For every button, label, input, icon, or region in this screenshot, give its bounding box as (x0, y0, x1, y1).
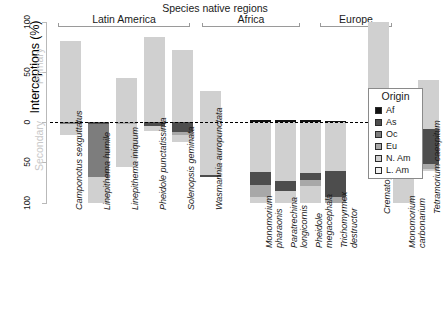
legend-label: Eu (386, 141, 397, 151)
species-label-linepithema-iniquum: Linepithema iniquum (131, 127, 141, 210)
y-axis-line (46, 22, 47, 203)
y-tick-label: 0 (22, 109, 32, 135)
legend-label: L. Am (386, 165, 409, 175)
bar-segment-primary-nam (116, 78, 137, 122)
legend-swatch-icon (375, 107, 382, 114)
legend-swatch-icon (375, 131, 382, 138)
species-label-trichomyrmex-destructor: Trichomyrmexdestructor (340, 192, 359, 248)
legend-swatch-icon (375, 143, 382, 150)
species-label-pheidole-megacephala: Pheidolemegacephala (315, 194, 334, 248)
y-tick-mark (42, 22, 47, 23)
bar-segment-secondary-as (250, 172, 271, 185)
species-label-monomorium-carbonarium: Monomoriumcarbonarium (408, 195, 427, 248)
species-label-linepithema-humile: Linepithema humile (103, 132, 113, 210)
bar-segment-primary-nam (144, 37, 165, 122)
bar-segment-secondary-nam (250, 122, 271, 172)
bar-segment-secondary-as (275, 181, 296, 191)
bar-segment-secondary-as (300, 173, 321, 180)
legend-swatch-icon (375, 155, 382, 162)
species-label-line: carbonarium (418, 195, 428, 248)
legend-title: Origin (369, 90, 422, 102)
bar-paratrechina-longicornis[interactable] (275, 22, 296, 203)
bar-trichomyrmex-destructor[interactable] (325, 22, 346, 203)
species-label-line: destructor (350, 192, 360, 248)
species-label-tetramorium-caespitum: Tetramorium caespitum (433, 120, 443, 214)
bar-segment-primary-nam (172, 50, 193, 122)
bar-monomorium-pharaonis[interactable] (250, 22, 271, 203)
species-label-camponotus-sexguttatus: Camponotus sexguttatus (75, 110, 85, 210)
species-label-line: pharaonis (275, 195, 285, 248)
legend-label: Oc (386, 129, 398, 139)
legend-swatch-icon (375, 119, 382, 126)
legend-label: N. Am (386, 153, 411, 163)
bar-pheidole-megacephala[interactable] (300, 22, 321, 203)
species-label-line: megacephala (325, 194, 335, 248)
species-label-line: longicornis (300, 197, 310, 248)
bar-segment-secondary-nam (325, 122, 346, 171)
y-tick-label: 50 (22, 149, 32, 175)
y-tick-label: 100 (22, 9, 32, 35)
species-label-pheidole-punctatissima: Pheidole punctatissima (159, 117, 169, 210)
species-label-monomorium-pharaonis: Monomoriumpharaonis (265, 195, 284, 248)
species-label-paratrechina-longicornis: Paratrechinalongicornis (290, 197, 309, 248)
legend: Origin AfAsOcEuN. AmL. Am (368, 88, 423, 179)
bar-segment-secondary-nam (275, 122, 296, 181)
y-tick-label: 100 (22, 190, 32, 216)
y-tick-mark (42, 203, 47, 204)
species-label-solenopsis-geminata: Solenopsis geminata (187, 126, 197, 210)
axis-caption-primary: Primary (33, 31, 45, 101)
species-label-wasmannia-auropunctata: Wasmannia auropunctata (215, 108, 225, 210)
legend-swatch-icon (375, 167, 382, 174)
zero-reference-line (50, 122, 408, 123)
legend-label: Af (386, 105, 395, 115)
legend-label: As (386, 117, 397, 127)
bar-segment-secondary-nam (300, 122, 321, 173)
y-tick-label: 50 (22, 59, 32, 85)
axis-caption-secondary: Secondary (33, 111, 45, 181)
